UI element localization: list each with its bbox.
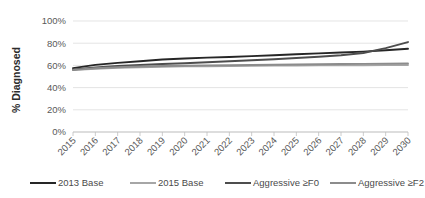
series-lines-group — [73, 42, 408, 70]
x-axis-tick-label: 2022 — [212, 135, 235, 158]
x-axis-tick-label: 2016 — [78, 135, 101, 158]
x-axis-line-and-ticks — [73, 132, 408, 136]
legend-item-label: Aggressive ≥F2 — [358, 177, 424, 188]
y-axis-tick-label: 40% — [47, 82, 67, 93]
x-axis-tick-label: 2020 — [167, 135, 190, 158]
y-axis-tick-labels: 0%20%40%60%80%100% — [42, 15, 67, 137]
x-axis-tick-label: 2025 — [279, 135, 302, 158]
legend-item-label: Aggressive ≥F0 — [253, 177, 319, 188]
y-axis-tick-label: 80% — [47, 38, 67, 49]
x-axis-tick-label: 2028 — [346, 135, 369, 158]
y-axis-tick-label: 60% — [47, 60, 67, 71]
x-axis-tick-label: 2021 — [189, 135, 212, 158]
y-axis-tick-label: 100% — [42, 15, 67, 26]
x-axis-tick-label: 2030 — [390, 135, 413, 158]
x-axis-tick-label: 2018 — [122, 135, 145, 158]
x-axis-tick-labels: 2015201620172018201920202021202220232024… — [55, 135, 413, 158]
x-axis-tick-label: 2026 — [301, 135, 324, 158]
chart-plot-svg: 0%20%40%60%80%100% 201520162017201820192… — [0, 0, 425, 198]
gridlines-group — [73, 21, 408, 132]
y-axis-tick-label: 20% — [47, 104, 67, 115]
x-axis-tick-label: 2023 — [234, 135, 257, 158]
x-axis-tick-label: 2029 — [368, 135, 391, 158]
legend-item-label: 2015 Base — [158, 177, 203, 188]
y-axis-tick-label: 0% — [52, 126, 66, 137]
x-axis-tick-label: 2027 — [323, 135, 346, 158]
x-axis-tick-label: 2015 — [55, 135, 78, 158]
x-axis-tick-label: 2019 — [145, 135, 168, 158]
legend-item-label: 2013 Base — [58, 177, 103, 188]
y-axis-title: % Diagnosed — [10, 47, 22, 113]
chart-legend: 2013 Base2015 BaseAggressive ≥F0Aggressi… — [30, 177, 424, 188]
x-axis-tick-label: 2024 — [256, 135, 279, 158]
x-axis-tick-label: 2017 — [100, 135, 123, 158]
chart-figure: 0%20%40%60%80%100% 201520162017201820192… — [0, 0, 425, 198]
